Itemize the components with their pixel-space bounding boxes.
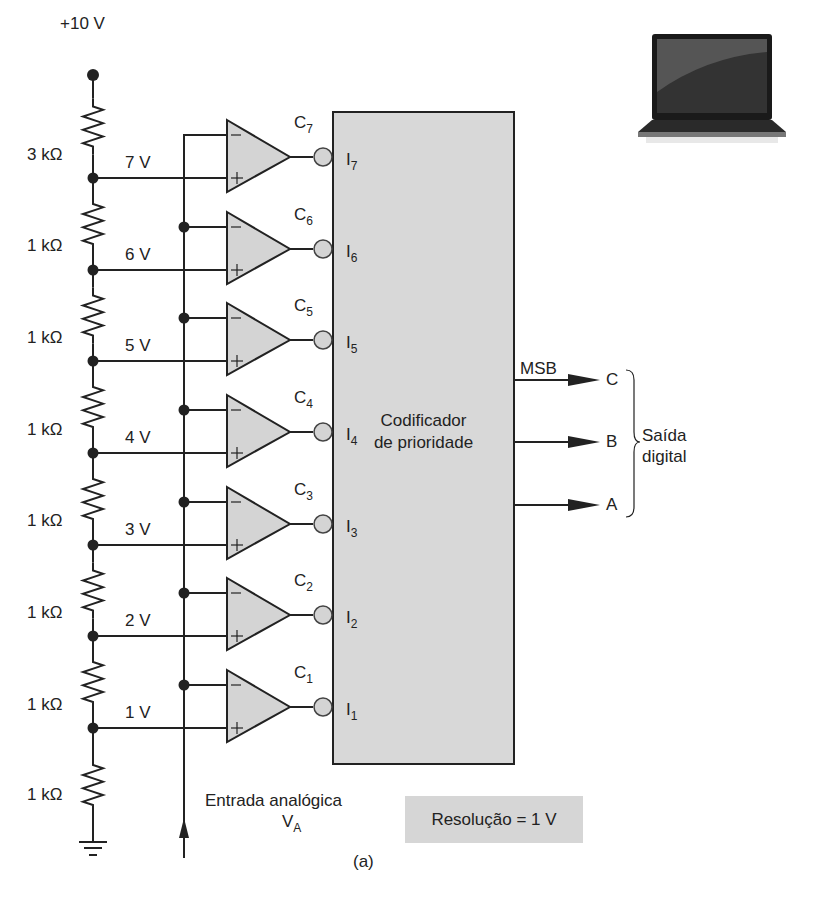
output-bit-label: C: [606, 371, 618, 388]
comparator-label: C2: [294, 572, 313, 593]
encoder-input-label: I3: [346, 518, 357, 539]
tap-voltage-label: 2 V: [125, 612, 151, 629]
comparator-label: C7: [294, 114, 313, 135]
output-bit-label: B: [606, 433, 617, 450]
comparator-label: C3: [294, 481, 313, 502]
resistor-label: 1 kΩ: [27, 696, 62, 713]
resistor-label: 1 kΩ: [27, 237, 62, 254]
output-bit-label: A: [606, 496, 617, 513]
encoder-input-label: I1: [346, 701, 357, 722]
laptop-icon: [636, 32, 788, 144]
comparator-label: C4: [294, 389, 313, 410]
encoder-input-label: I5: [346, 334, 357, 355]
analog-input-text: Entrada analógica: [205, 792, 342, 809]
resistor-label: 1 kΩ: [27, 329, 62, 346]
resistor-label: 1 kΩ: [27, 604, 62, 621]
encoder-line-2: de prioridade: [333, 432, 514, 454]
comparator-label: C5: [294, 297, 313, 318]
digital-output-line-1: Saída: [642, 425, 686, 446]
priority-encoder-label: Codificador de prioridade: [333, 410, 514, 454]
digital-output-label: Saída digital: [642, 425, 686, 467]
resistor-label: 3 kΩ: [27, 146, 62, 163]
tap-voltage-label: 1 V: [125, 704, 151, 721]
tap-voltage-label: 5 V: [125, 337, 151, 354]
supply-label: +10 V: [60, 15, 105, 32]
msb-label: MSB: [520, 360, 557, 377]
analog-input-label: Entrada analógica VA: [205, 792, 342, 834]
encoder-input-label: I7: [346, 151, 357, 172]
encoder-line-1: Codificador: [333, 410, 514, 432]
tap-voltage-label: 6 V: [125, 246, 151, 263]
tap-voltage-label: 7 V: [125, 154, 151, 171]
resistor-label: 1 kΩ: [27, 512, 62, 529]
comparator-label: C1: [294, 664, 313, 685]
resolution-box: Resolução = 1 V: [405, 796, 583, 843]
encoder-input-label: I2: [346, 609, 357, 630]
resistor-label: 1 kΩ: [27, 786, 62, 803]
tap-voltage-label: 3 V: [125, 521, 151, 538]
analog-input-symbol: VA: [282, 813, 342, 834]
figure-caption: (a): [353, 853, 374, 870]
encoder-input-label: I6: [346, 243, 357, 264]
tap-voltage-label: 4 V: [125, 429, 151, 446]
comparator-label: C6: [294, 206, 313, 227]
resistor-label: 1 kΩ: [27, 421, 62, 438]
digital-output-line-2: digital: [642, 446, 686, 467]
